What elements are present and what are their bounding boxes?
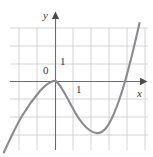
graph-canvas bbox=[0, 0, 153, 157]
y-axis-label: y bbox=[43, 10, 48, 21]
cubic-curve bbox=[4, 23, 140, 153]
x-axis-unit-label: 1 bbox=[76, 84, 82, 95]
x-axis-label: x bbox=[137, 88, 142, 99]
origin-label: 0 bbox=[43, 65, 49, 76]
cubic-function-graph: y x 0 1 1 bbox=[0, 0, 153, 157]
y-axis-unit-label: 1 bbox=[60, 56, 66, 67]
